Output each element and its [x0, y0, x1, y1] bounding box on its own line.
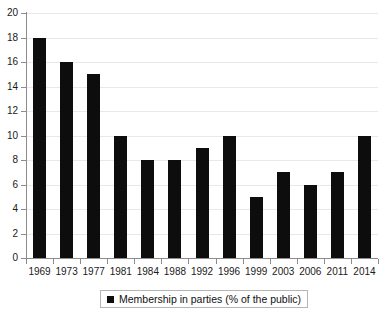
y-axis-tick — [21, 160, 26, 161]
y-axis-tick — [21, 209, 26, 210]
x-axis-tick — [378, 259, 379, 264]
x-axis-tick — [80, 259, 81, 264]
y-axis-tick — [21, 234, 26, 235]
bar — [60, 62, 73, 258]
x-axis-tick — [161, 259, 162, 264]
bar — [304, 185, 317, 259]
bar — [223, 136, 236, 259]
y-axis-tick — [21, 87, 26, 88]
y-axis-label: 4 — [0, 204, 18, 214]
bar — [168, 160, 181, 258]
y-axis-label: 0 — [0, 253, 18, 263]
legend-label: Membership in parties (% of the public) — [119, 294, 301, 305]
gridline — [26, 136, 378, 137]
bar-chart: 02468101214161820 1969197319771981198419… — [0, 0, 389, 317]
y-axis-label: 2 — [0, 229, 18, 239]
y-axis-tick — [21, 111, 26, 112]
plot-area — [26, 13, 378, 258]
x-axis-line — [26, 258, 378, 259]
bar — [141, 160, 154, 258]
x-axis-tick — [243, 259, 244, 264]
bar — [114, 136, 127, 259]
x-axis-tick — [297, 259, 298, 264]
y-axis-label: 12 — [0, 106, 18, 116]
x-axis-tick — [188, 259, 189, 264]
y-axis-label: 10 — [0, 131, 18, 141]
chart-legend[interactable]: Membership in parties (% of the public) — [100, 290, 308, 308]
gridline — [26, 62, 378, 63]
x-axis-tick — [216, 259, 217, 264]
x-axis-tick — [53, 259, 54, 264]
x-axis-tick — [324, 259, 325, 264]
y-axis-tick — [21, 13, 26, 14]
bar — [196, 148, 209, 258]
gridline — [26, 87, 378, 88]
x-axis-tick — [351, 259, 352, 264]
bar — [33, 38, 46, 259]
y-axis-line — [26, 12, 27, 259]
gridline — [26, 38, 378, 39]
x-axis-label: 2014 — [344, 266, 384, 277]
y-axis-label: 16 — [0, 57, 18, 67]
bar — [277, 172, 290, 258]
y-axis-label: 6 — [0, 180, 18, 190]
x-axis-tick — [270, 259, 271, 264]
bar — [358, 136, 371, 259]
legend-square-icon — [107, 296, 114, 303]
x-axis-tick — [26, 259, 27, 264]
bar — [331, 172, 344, 258]
y-axis-tick — [21, 185, 26, 186]
bar — [87, 74, 100, 258]
y-axis-label: 8 — [0, 155, 18, 165]
x-axis-tick — [107, 259, 108, 264]
y-axis-tick — [21, 136, 26, 137]
bar — [250, 197, 263, 258]
y-axis-tick — [21, 62, 26, 63]
x-axis-tick — [134, 259, 135, 264]
gridline — [26, 111, 378, 112]
y-axis-label: 18 — [0, 33, 18, 43]
gridline — [26, 13, 378, 14]
y-axis-label: 14 — [0, 82, 18, 92]
y-axis-tick — [21, 38, 26, 39]
y-axis-label: 20 — [0, 8, 18, 18]
